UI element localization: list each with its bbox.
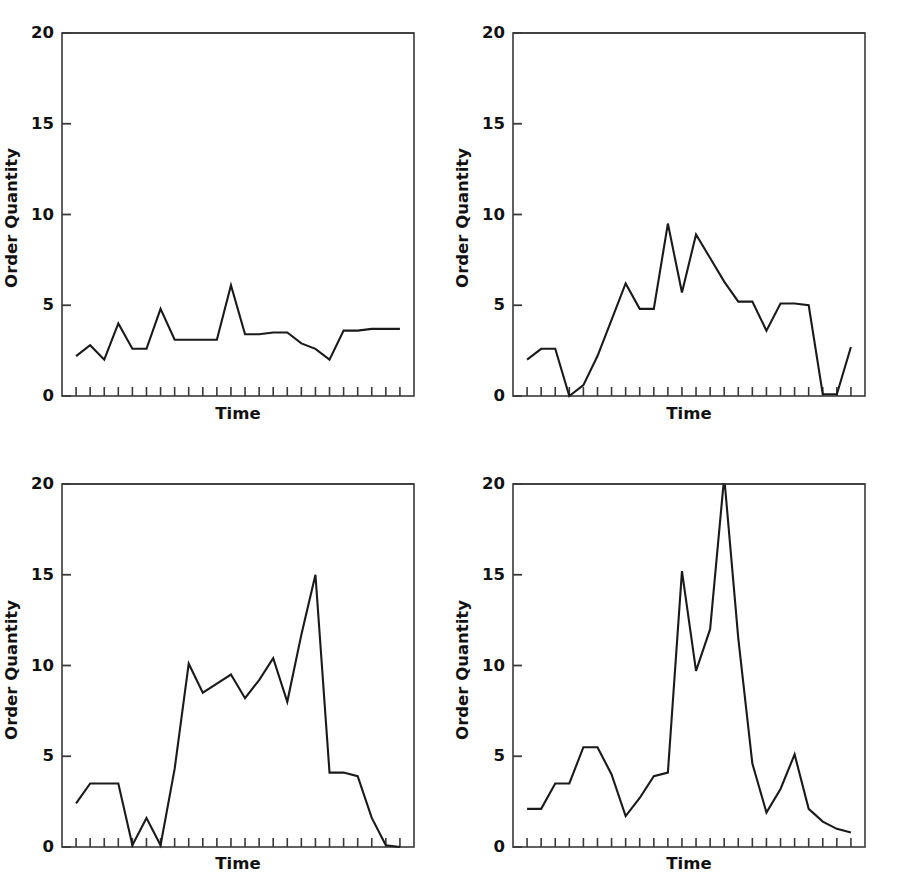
- top-clip: [451, 0, 902, 32]
- y-tick-label: 20: [24, 25, 54, 42]
- data-line: [76, 575, 400, 847]
- y-tick-label: 20: [24, 476, 54, 493]
- y-axis-ticks: [62, 484, 71, 847]
- panel-consumers-sales: Consumers Sales Order Quantity Time 0510…: [0, 0, 451, 440]
- x-axis-label-0: Time: [62, 404, 414, 423]
- panel-manufacturer-orders: Manufacturer‘s Orders to Supplier Order …: [451, 440, 902, 879]
- y-tick-label: 0: [475, 388, 505, 405]
- y-axis-ticks: [513, 484, 522, 847]
- y-tick-label: 5: [24, 748, 54, 765]
- plot-frame: [513, 33, 865, 396]
- panel-wholesaler-orders: Wholesaler‘s Orders to Manufacturer Orde…: [0, 440, 451, 879]
- y-tick-label: 20: [475, 25, 505, 42]
- x-axis-label-3: Time: [513, 854, 865, 873]
- plot-frame: [513, 484, 865, 847]
- top-clip: [451, 440, 902, 483]
- x-axis-label-2: Time: [62, 854, 414, 873]
- y-tick-label: 15: [24, 116, 54, 133]
- chart-grid: Consumers Sales Order Quantity Time 0510…: [0, 0, 902, 879]
- plot-svg-1: [451, 0, 902, 440]
- y-tick-label: 20: [475, 476, 505, 493]
- y-tick-label: 10: [475, 207, 505, 224]
- plot-svg-3: [451, 440, 902, 879]
- panel-retailer-orders: Retailer‘s Orders to Wholesaler Order Qu…: [451, 0, 902, 440]
- y-tick-label: 0: [24, 388, 54, 405]
- y-tick-label: 0: [24, 839, 54, 856]
- y-tick-label: 10: [24, 658, 54, 675]
- plot-svg-0: [0, 0, 451, 440]
- y-tick-label: 15: [24, 567, 54, 584]
- y-tick-label: 15: [475, 116, 505, 133]
- y-tick-label: 10: [475, 658, 505, 675]
- plot-svg-2: [0, 440, 451, 879]
- y-axis-ticks: [62, 33, 71, 396]
- top-clip: [0, 0, 451, 32]
- y-tick-label: 10: [24, 207, 54, 224]
- plot-frame: [62, 33, 414, 396]
- y-tick-label: 15: [475, 567, 505, 584]
- y-tick-label: 5: [24, 297, 54, 314]
- data-line: [76, 285, 400, 359]
- top-clip: [0, 440, 451, 483]
- plot-frame: [62, 484, 414, 847]
- data-line: [527, 477, 851, 833]
- x-axis-ticks: [527, 838, 851, 847]
- y-tick-label: 5: [475, 748, 505, 765]
- data-line: [527, 224, 851, 396]
- x-axis-label-1: Time: [513, 404, 865, 423]
- y-tick-label: 5: [475, 297, 505, 314]
- x-axis-ticks: [76, 838, 400, 847]
- y-axis-ticks: [513, 33, 522, 396]
- x-axis-ticks: [76, 387, 400, 396]
- y-tick-label: 0: [475, 839, 505, 856]
